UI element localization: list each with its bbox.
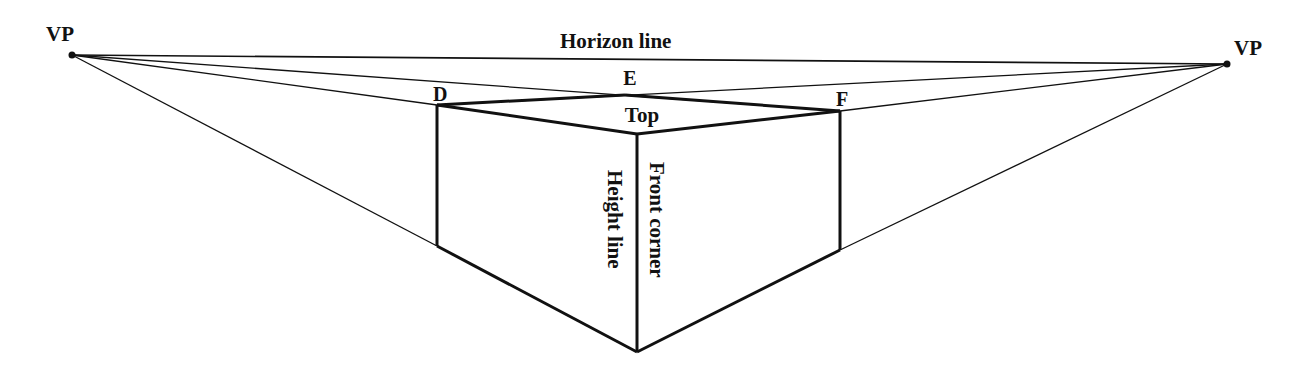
height-line-label: Height line — [603, 170, 627, 269]
vp-left-label: VP — [46, 22, 74, 46]
top-face-label: Top — [625, 103, 659, 127]
diagram-canvas: VP VP Horizon line D E F Top Height line… — [0, 0, 1309, 376]
vertical-edges — [437, 105, 840, 352]
point-f-label: F — [836, 88, 848, 110]
point-d-label: D — [433, 83, 447, 105]
front-corner-label: Front corner — [645, 162, 669, 278]
perspective-diagram: VP VP Horizon line D E F Top Height line… — [0, 0, 1309, 376]
left-vp-construction-lines — [72, 55, 840, 246]
horizon-line-label: Horizon line — [560, 29, 671, 53]
point-e-label: E — [623, 67, 636, 89]
right-vp-construction-lines — [437, 64, 1227, 250]
vp-right-label: VP — [1234, 36, 1262, 60]
vp-left-dot — [69, 52, 76, 59]
vp-right-dot — [1224, 61, 1231, 68]
horizon-line — [72, 55, 1227, 64]
